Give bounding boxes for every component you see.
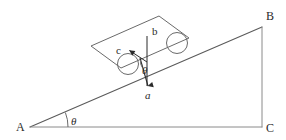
diagram-canvas: A B C θ θ b c a [0,0,286,140]
vector-label-a: a [145,89,151,101]
inclined-plane-diagram: A B C θ θ b c a [0,0,286,140]
vertex-label-a: A [16,120,25,134]
angle-label-theta-base: θ [71,115,77,127]
vector-label-b: b [152,25,158,37]
vertex-label-b: B [266,9,274,23]
angle-label-theta-cart: θ [142,64,148,76]
cart-body [91,16,189,68]
vector-label-c: c [116,44,121,56]
vertex-label-c: C [266,121,274,135]
angle-theta-base [65,113,68,127]
cart-on-incline [91,16,189,75]
wheel-rear-icon [118,54,139,75]
